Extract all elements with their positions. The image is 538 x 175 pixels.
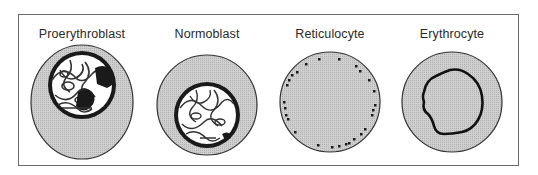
normoblast-cell (157, 55, 257, 155)
proerythroblast-cell (31, 45, 133, 159)
erythrocyte-cell (402, 52, 502, 152)
reticulocyte-cell (280, 52, 380, 152)
